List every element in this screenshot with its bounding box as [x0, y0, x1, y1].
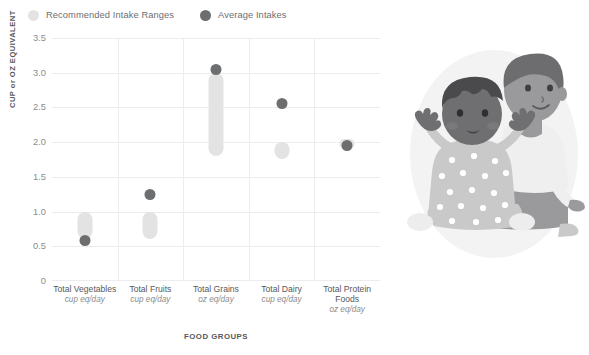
category-group: [118, 38, 184, 281]
two-children-sitting-illustration: [392, 42, 588, 290]
average-intake-dot: [276, 98, 287, 109]
legend-label-average-intakes: Average Intakes: [218, 10, 287, 20]
y-axis-tick-label: 2.0: [33, 137, 46, 147]
category-group: [314, 38, 380, 281]
legend-swatch-range-icon: [28, 10, 39, 21]
legend-item-average-intakes: Average Intakes: [200, 10, 287, 21]
category-name: Total Protein Foods: [314, 284, 380, 304]
recommended-range-bar: [208, 73, 223, 156]
category-group: [183, 38, 249, 281]
category-unit: cup eq/day: [249, 295, 315, 305]
x-axis-category-label: Total Fruitscup eq/day: [118, 284, 184, 305]
category-name: Total Vegetables: [52, 284, 118, 294]
category-unit: cup eq/day: [52, 295, 118, 305]
category-unit: cup eq/day: [118, 295, 184, 305]
average-intake-dot: [210, 64, 221, 75]
y-axis-tick-label: 0.5: [33, 241, 46, 251]
y-axis-tick-label: 1.5: [33, 172, 46, 182]
y-axis-tick-label: 0: [41, 276, 46, 286]
x-axis-category-label: Total Protein Foodsoz eq/day: [314, 284, 380, 315]
recommended-range-bar: [274, 142, 289, 159]
category-unit: oz eq/day: [314, 305, 380, 315]
y-axis-tick-label: 3.0: [33, 68, 46, 78]
category-name: Total Grains: [183, 284, 249, 294]
average-intake-dot: [145, 189, 156, 200]
legend-swatch-average-icon: [200, 10, 211, 21]
legend-item-recommended-intake-ranges: Recommended Intake Ranges: [28, 10, 174, 21]
x-axis-labels: Total Vegetablescup eq/dayTotal Fruitscu…: [52, 284, 380, 326]
x-axis-category-label: Total Vegetablescup eq/day: [52, 284, 118, 305]
chart-legend: Recommended Intake Ranges Average Intake…: [28, 7, 287, 23]
category-group: [52, 38, 118, 281]
y-axis-tick-label: 3.5: [33, 33, 46, 43]
y-axis-tick-label: 2.5: [33, 102, 46, 112]
y-axis-tick-label: 1.0: [33, 207, 46, 217]
category-name: Total Fruits: [118, 284, 184, 294]
y-axis-title: CUP or OZ EQUIVALENT: [8, 10, 17, 108]
chart-page: Recommended Intake Ranges Average Intake…: [0, 0, 589, 355]
legend-label-recommended-intake-ranges: Recommended Intake Ranges: [46, 10, 174, 20]
recommended-range-bar: [143, 212, 158, 240]
category-unit: oz eq/day: [183, 295, 249, 305]
plot-area: 00.51.01.52.02.53.03.5: [52, 38, 380, 281]
x-axis-category-label: Total Grainsoz eq/day: [183, 284, 249, 305]
x-axis-category-label: Total Dairycup eq/day: [249, 284, 315, 305]
x-axis-title: FOOD GROUPS: [52, 332, 380, 341]
average-intake-dot: [79, 235, 90, 246]
category-name: Total Dairy: [249, 284, 315, 294]
category-group: [249, 38, 315, 281]
average-intake-dot: [342, 140, 353, 151]
